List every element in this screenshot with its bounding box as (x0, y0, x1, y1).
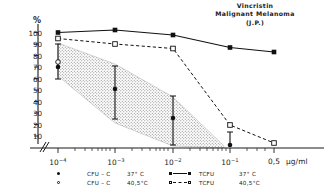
y-tick-marks (34, 33, 38, 137)
open-circle-icon (57, 181, 60, 184)
chart-figure: Vincristin Malignant Melanoma (J.P.) % 1… (0, 0, 328, 194)
legend-key-cfu-405 (57, 181, 87, 184)
data-point-marker (171, 46, 176, 51)
data-point-marker (228, 123, 233, 128)
axis-break-marker (40, 142, 49, 152)
data-point-marker (171, 33, 176, 38)
legend-key-tcfu-37 (169, 172, 199, 175)
chart-legend: CFU – C 37° C TCFU 37° C CFU – C 40,5°C … (57, 169, 277, 187)
shaded-band-region (58, 43, 224, 148)
data-point-marker (56, 65, 61, 70)
data-point-marker (113, 28, 118, 33)
legend-temp-cfu-405: 40,5°C (127, 180, 165, 186)
data-point-marker (272, 141, 277, 146)
data-point-marker (228, 45, 233, 50)
data-point-marker (272, 50, 277, 55)
solid-line-icon (173, 173, 187, 174)
filled-square-icon (188, 172, 191, 175)
legend-label-cfu-405: CFU – C (87, 180, 127, 186)
plot-canvas (0, 0, 328, 194)
open-square-icon (188, 181, 191, 184)
dashed-line-icon (173, 182, 187, 183)
data-point-marker (171, 116, 176, 121)
legend-key-cfu-37 (57, 172, 87, 175)
data-point-marker (113, 87, 118, 92)
filled-circle-icon (57, 172, 60, 175)
data-point-marker (56, 30, 61, 35)
legend-label-cfu-37: CFU – C (87, 171, 127, 177)
legend-key-tcfu-405 (169, 181, 199, 184)
legend-label-tcfu-405: TCFU (199, 180, 239, 186)
data-point-marker (56, 60, 61, 65)
open-square-icon (169, 181, 172, 184)
data-point-marker (113, 42, 118, 47)
filled-square-icon (169, 172, 172, 175)
data-point-marker (228, 143, 233, 148)
legend-temp-tcfu-37: 37° C (239, 171, 277, 177)
legend-label-tcfu-37: TCFU (199, 171, 239, 177)
x-tick-marks (58, 148, 274, 153)
legend-row-2: CFU – C 40,5°C TCFU 40,5°C (57, 178, 277, 187)
legend-row-1: CFU – C 37° C TCFU 37° C (57, 169, 277, 178)
legend-temp-tcfu-405: 40,5°C (239, 180, 277, 186)
data-point-marker (56, 36, 61, 41)
legend-temp-cfu-37: 37° C (127, 171, 165, 177)
cfu-c-405-markers (56, 60, 61, 65)
